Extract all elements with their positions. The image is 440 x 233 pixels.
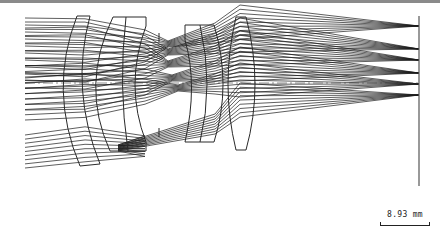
ray-fans (25, 5, 419, 168)
scale-bar: 8.93 mm (374, 210, 436, 226)
scale-bar-label: 8.93 mm (374, 210, 436, 219)
lens-layout-diagram (0, 0, 440, 200)
scale-bar-line (380, 222, 430, 226)
